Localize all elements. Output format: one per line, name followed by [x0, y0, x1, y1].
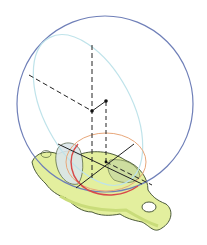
center-point: [90, 109, 94, 113]
pelvis-sphere-diagram: [0, 0, 207, 245]
pelvis-bone: [32, 143, 171, 230]
diagram-stage: [0, 0, 207, 245]
intersection-point: [105, 161, 108, 164]
obturator-foramen: [142, 202, 156, 212]
short-solid-link: [92, 101, 106, 111]
offset-point: [104, 99, 108, 103]
